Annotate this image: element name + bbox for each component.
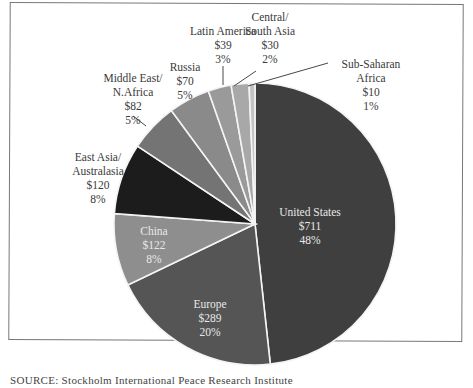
label-east-asia-australasia: East Asia/ Australasia $120 8% — [53, 150, 143, 206]
label-united-states: United States $711 48% — [265, 205, 355, 247]
source-note: SOURCE: Stockholm International Peace Re… — [10, 374, 293, 386]
label-europe: Europe $289 20% — [170, 297, 250, 339]
label-china: China $122 8% — [124, 224, 184, 266]
label-central-south-asia: Central/ South Asia $30 2% — [230, 10, 310, 66]
label-russia: Russia $70 5% — [155, 60, 215, 102]
leader-sub-saharan-africa — [248, 63, 328, 86]
label-sub-saharan-africa: Sub-Saharan Africa $10 1% — [326, 57, 416, 113]
